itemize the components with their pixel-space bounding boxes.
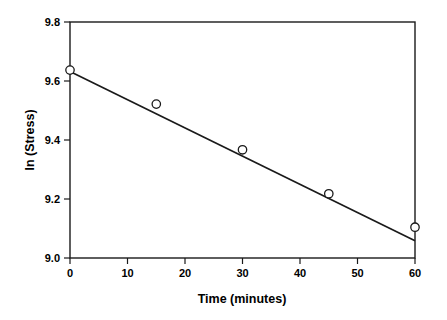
x-tick-label-10: 10	[121, 267, 133, 279]
data-point-45	[325, 190, 333, 198]
x-tick-label-20: 20	[179, 267, 191, 279]
x-tick-label-0: 0	[67, 267, 73, 279]
x-tick-label-50: 50	[351, 267, 363, 279]
y-tick-label-9.2: 9.2	[45, 193, 60, 205]
x-axis-ticks	[70, 258, 415, 264]
y-tick-label-9.4: 9.4	[45, 134, 61, 146]
chart-figure: 9.8 9.6 9.4 9.2 9.0 0 10 20 30 40 50 60	[0, 0, 447, 320]
y-tick-label-9.8: 9.8	[45, 16, 60, 28]
x-tick-label-30: 30	[236, 267, 248, 279]
plot-frame	[70, 22, 415, 258]
x-axis-title: Time (minutes)	[198, 292, 287, 306]
data-point-30	[238, 146, 246, 154]
y-axis-ticks	[64, 22, 70, 258]
y-tick-label-9.6: 9.6	[45, 75, 60, 87]
data-point-60	[411, 223, 419, 231]
data-point-15	[152, 100, 160, 108]
y-tick-label-9.0: 9.0	[45, 252, 60, 264]
y-axis-title: ln (Stress)	[23, 109, 37, 170]
x-tick-label-40: 40	[294, 267, 306, 279]
regression-fit-line	[70, 72, 415, 241]
data-point-0	[66, 66, 74, 74]
x-axis-tick-labels: 0 10 20 30 40 50 60	[67, 267, 421, 279]
x-tick-label-60: 60	[409, 267, 421, 279]
y-axis-tick-labels: 9.8 9.6 9.4 9.2 9.0	[45, 16, 61, 264]
scatter-plot-svg: 9.8 9.6 9.4 9.2 9.0 0 10 20 30 40 50 60	[0, 0, 447, 320]
data-markers	[66, 66, 419, 232]
